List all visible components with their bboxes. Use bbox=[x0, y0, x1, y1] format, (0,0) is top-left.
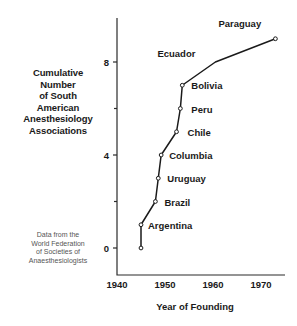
data-point-marker bbox=[159, 153, 163, 157]
x-axis-tick-label: 1950 bbox=[145, 279, 185, 290]
data-point-label-argentina: Argentina bbox=[148, 219, 192, 230]
y-axis-tick-label: 4 bbox=[93, 150, 109, 161]
data-point-label-bolivia: Bolivia bbox=[191, 80, 222, 91]
data-point-marker bbox=[154, 200, 158, 204]
data-point-marker bbox=[175, 130, 179, 134]
anesthesiology-associations-chart: Cumulative Number of South American Anes… bbox=[0, 0, 297, 326]
data-point-markers bbox=[139, 37, 277, 250]
axes bbox=[113, 18, 285, 275]
plot-area bbox=[0, 0, 297, 326]
x-axis-title: Year of Founding bbox=[120, 301, 270, 312]
x-axis-tick-label: 1970 bbox=[241, 279, 281, 290]
data-point-marker bbox=[274, 37, 278, 41]
data-point-label-uruguay: Uruguay bbox=[167, 173, 206, 184]
x-axis-tick-label: 1960 bbox=[193, 279, 233, 290]
y-axis-tick-label: 0 bbox=[93, 243, 109, 254]
data-point-marker bbox=[156, 176, 160, 180]
axis-spine bbox=[117, 18, 285, 275]
series-polyline bbox=[141, 39, 275, 248]
data-point-label-ecuador: Ecuador bbox=[157, 48, 195, 59]
data-point-label-paraguay: Paraguay bbox=[218, 17, 261, 28]
data-point-label-chile: Chile bbox=[188, 126, 211, 137]
data-series-line bbox=[141, 39, 275, 248]
y-axis-tick-label: 8 bbox=[93, 57, 109, 68]
data-point-marker bbox=[178, 107, 182, 111]
x-axis-tick-label: 1940 bbox=[97, 279, 137, 290]
data-point-label-peru: Peru bbox=[191, 103, 212, 114]
data-point-label-brazil: Brazil bbox=[164, 196, 190, 207]
data-point-marker bbox=[139, 223, 143, 227]
data-point-marker bbox=[139, 246, 143, 250]
data-point-marker bbox=[180, 83, 184, 87]
data-point-label-columbia: Columbia bbox=[169, 150, 212, 161]
